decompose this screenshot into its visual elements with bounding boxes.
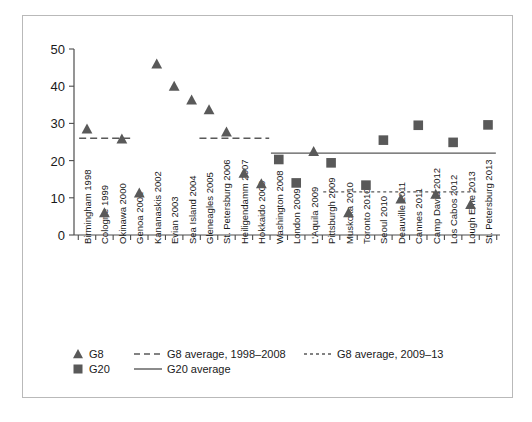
- x-category-label: Hokkaido 2008: [256, 181, 267, 244]
- data-point-g8: [221, 127, 232, 137]
- x-category-label: St. Petersburg 2013: [483, 160, 494, 245]
- x-category-label: St. Petersburg 2006: [221, 159, 232, 244]
- chart-canvas: 01020304050Birmingham 1998Cologne 1999Ok…: [0, 0, 532, 422]
- x-category-label: Cannes 2011: [413, 188, 424, 244]
- x-category-label: Kananaskis 2002: [152, 171, 163, 244]
- x-category-label: Gleneagles 2005: [204, 172, 215, 244]
- x-category-label: Birmingham 1998: [82, 170, 93, 244]
- x-category-label: Seoul 2010: [378, 196, 389, 244]
- data-point-g8: [169, 81, 180, 91]
- data-point-g8: [82, 124, 93, 134]
- data-point-g20: [413, 120, 423, 130]
- data-point-g8: [186, 95, 197, 105]
- data-point-g8: [204, 104, 215, 114]
- legend-label-g20: G20: [89, 363, 110, 375]
- data-point-g20: [361, 180, 371, 190]
- data-point-g20: [483, 120, 493, 130]
- y-tick-label: 20: [51, 154, 65, 169]
- y-tick-label: 30: [51, 116, 65, 131]
- x-category-label: Pittsburgh 2009: [326, 177, 337, 244]
- legend-label-g8-avg-1998-2008: G8 average, 1998–2008: [167, 348, 286, 360]
- x-category-label: Evian 2003: [169, 196, 180, 244]
- data-point-g8: [151, 58, 162, 68]
- data-point-g20: [291, 178, 301, 188]
- legend-label-g8: G8: [89, 348, 104, 360]
- y-tick-label: 50: [51, 42, 65, 57]
- x-category-label: Genoa 2001: [134, 192, 145, 244]
- legend-triangle-icon: [73, 349, 83, 358]
- data-point-g20: [379, 135, 389, 145]
- data-point-g20: [448, 138, 458, 148]
- x-category-label: Sea Island 2004: [187, 175, 198, 244]
- data-point-g8: [308, 146, 319, 156]
- legend-label-g8-avg-2009-13: G8 average, 2009–13: [337, 348, 443, 360]
- x-category-label: Camp David 2012: [431, 168, 442, 244]
- legend-square-icon: [74, 365, 83, 374]
- y-tick-label: 10: [51, 191, 65, 206]
- y-tick-label: 40: [51, 79, 65, 94]
- x-category-label: Okinawa 2000: [117, 183, 128, 244]
- x-category-label: Washington 2008: [274, 170, 285, 244]
- scatter-plot: 01020304050Birmingham 1998Cologne 1999Ok…: [0, 0, 532, 422]
- x-category-label: Los Cabos 2012: [448, 175, 459, 244]
- data-point-g20: [274, 155, 284, 165]
- x-category-label: L'Aquila 2009: [309, 187, 320, 244]
- x-category-label: Toronto 2010: [361, 189, 372, 244]
- y-tick-label: 0: [58, 228, 65, 243]
- data-point-g20: [326, 158, 336, 168]
- legend-label-g20-avg: G20 average: [167, 363, 231, 375]
- x-category-label: London 2009: [291, 189, 302, 244]
